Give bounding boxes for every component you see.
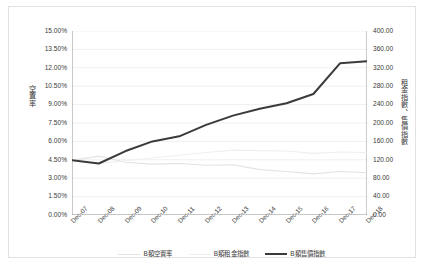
y-axis-left-tick-label: 12.00%	[27, 65, 67, 72]
y-axis-left-tick-label: 15.00%	[27, 28, 67, 35]
y-axis-left-tick-label: 0.00%	[27, 212, 67, 219]
y-axis-left-tick-label: 10.50%	[27, 83, 67, 90]
plot-area	[72, 31, 367, 215]
series-line-B類租金指數	[72, 150, 367, 163]
chart-container: 空置率 租金指數、售價指數 0.00%1.50%3.00%4.50%6.00%7…	[8, 6, 416, 258]
y-axis-right-tick-label: 40.00	[373, 193, 415, 200]
legend-item[interactable]: B類租金指數	[189, 251, 249, 257]
legend-item[interactable]: B類空置率	[118, 251, 172, 257]
y-axis-left-tick-label: 13.50%	[27, 46, 67, 53]
legend-label: B類空置率	[143, 251, 172, 257]
y-axis-right-tick-label: 80.00	[373, 175, 415, 182]
legend-label: B類售價指數	[290, 251, 325, 257]
y-axis-right-tick-label: 400.00	[373, 28, 415, 35]
legend-swatch	[118, 254, 140, 255]
y-axis-right-tick-label: 360.00	[373, 46, 415, 53]
y-axis-right-tick-label: 240.00	[373, 101, 415, 108]
plot-svg	[72, 31, 367, 215]
series-line-B類售價指數	[72, 61, 367, 163]
y-axis-left-tick-label: 6.00%	[27, 138, 67, 145]
y-axis-left-tick-label: 3.00%	[27, 175, 67, 182]
y-axis-left-tick-label: 9.00%	[27, 101, 67, 108]
chart-legend: B類空置率B類租金指數B類售價指數	[72, 247, 372, 261]
legend-swatch	[189, 254, 211, 255]
series-line-B類空置率	[72, 156, 367, 174]
y-axis-right-tick-label: 160.00	[373, 138, 415, 145]
y-axis-left-tick-label: 1.50%	[27, 193, 67, 200]
legend-item[interactable]: B類售價指數	[265, 251, 325, 257]
y-axis-right-tick-label: 320.00	[373, 65, 415, 72]
y-axis-left-tick-label: 4.50%	[27, 157, 67, 164]
y-axis-right-tick-label: 120.00	[373, 157, 415, 164]
legend-label: B類租金指數	[214, 251, 249, 257]
y-axis-right-tick-label: 280.00	[373, 83, 415, 90]
y-axis-left-tick-label: 7.50%	[27, 120, 67, 127]
legend-swatch	[265, 253, 287, 255]
y-axis-right-tick-label: 200.00	[373, 120, 415, 127]
